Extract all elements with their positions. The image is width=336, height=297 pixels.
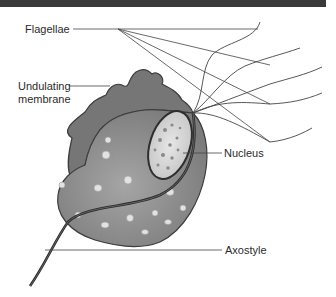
label-nucleus: Nucleus — [224, 147, 264, 159]
label-undulating-membrane-line1: Undulating — [18, 80, 71, 92]
flagella — [193, 22, 322, 142]
organism-illustration — [0, 0, 336, 297]
label-axostyle: Axostyle — [225, 244, 267, 256]
label-flagellae: Flagellae — [25, 23, 70, 35]
label-undulating-membrane-line2: membrane — [18, 93, 71, 105]
